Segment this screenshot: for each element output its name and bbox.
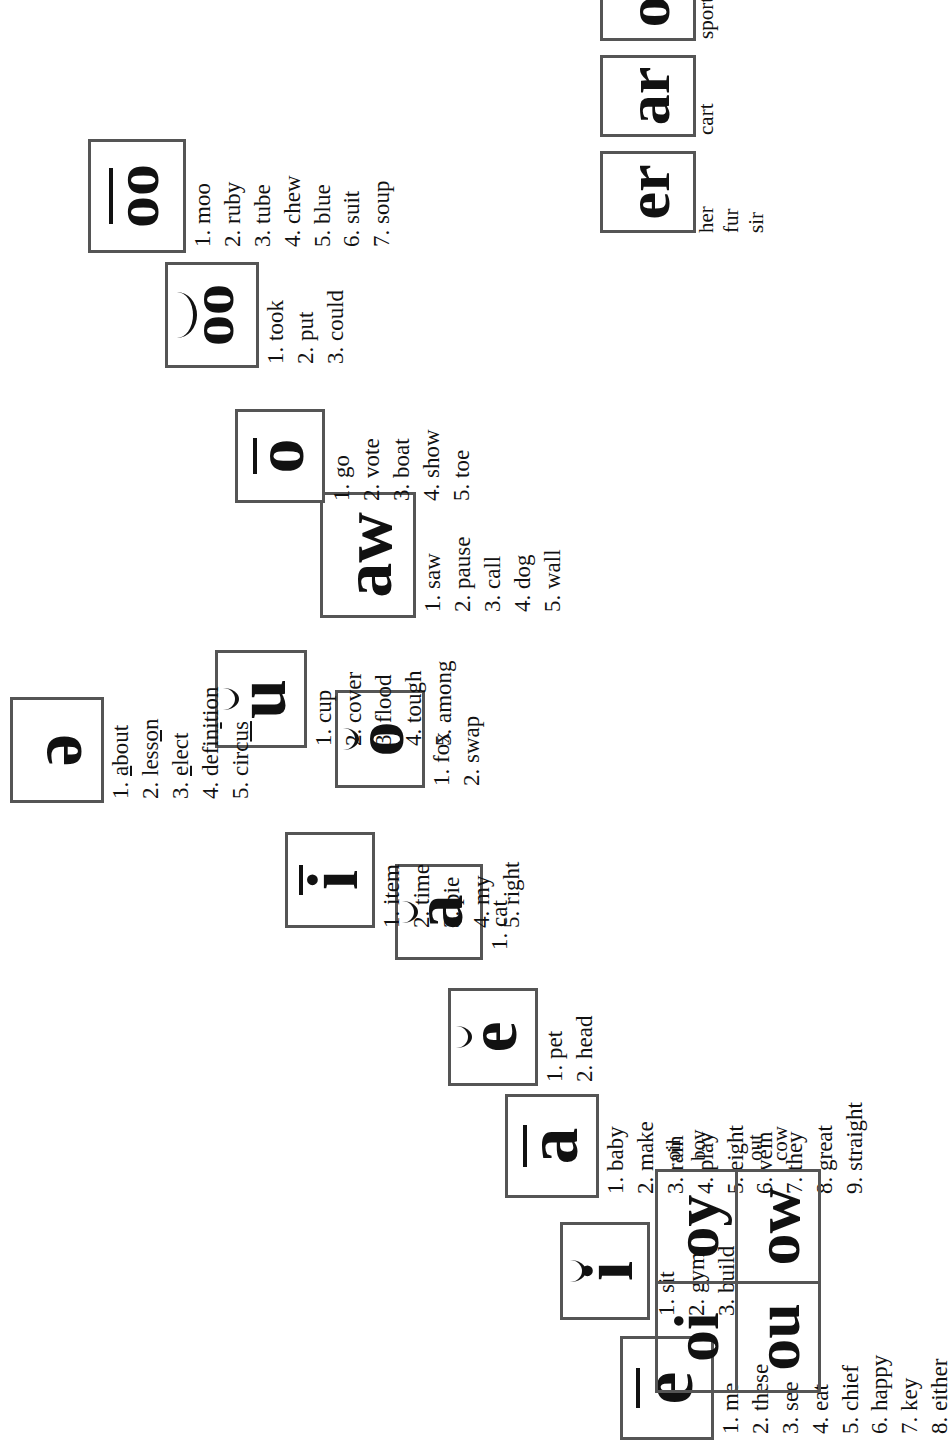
vowel-group-short-i: i 1. sit 2. gym 3. build: [560, 1222, 650, 1320]
word-item: boy: [686, 1130, 711, 1162]
word-item: 4. chew: [278, 175, 308, 247]
word-item: 5. blue: [308, 175, 338, 247]
word-item: 1. moo: [188, 175, 218, 247]
word-item: 8. either: [925, 1355, 952, 1434]
word-item: 1. baby: [601, 1102, 631, 1194]
diphthong-section: oi oy ou ow oil boy out cow: [655, 1169, 821, 1393]
vowel-card-ar[interactable]: ar: [600, 55, 696, 137]
word-list-short-oo: 1. took 2. put 3. could: [261, 290, 351, 364]
word-item: 1. about: [106, 687, 136, 799]
vowel-symbol-long-oo: oo: [107, 164, 168, 228]
word-item: 4. dog: [508, 537, 538, 612]
word-item: 2. swap: [457, 716, 487, 786]
word-item: 2. cover: [339, 660, 369, 746]
word-item: sport: [694, 0, 719, 39]
macron-icon: [253, 438, 257, 474]
word-item: 5. right: [497, 862, 527, 928]
vowel-card-long-i[interactable]: i: [285, 832, 375, 928]
vowel-symbol-ar: ar: [619, 67, 678, 126]
vowel-card-short-i[interactable]: i: [560, 1222, 650, 1320]
word-item: 5. circus: [226, 687, 256, 799]
word-item: 3. boat: [387, 429, 417, 501]
vowel-card-or[interactable]: or: [600, 0, 696, 41]
word-item: oil: [661, 1130, 686, 1162]
word-list-long-i: 1. item 2. time 3. pie 4. my 5. right: [377, 862, 526, 928]
vowel-card-short-e[interactable]: e: [448, 988, 538, 1086]
vowel-group-aw: aw 1. saw 2. pause 3. call 4. dog 5. wal…: [320, 492, 416, 618]
diphthong-cell-ow[interactable]: ow: [738, 1172, 818, 1281]
word-item: 1. go: [327, 429, 357, 501]
vowel-group-long-oo: oo 1. moo 2. ruby 3. tube 4. chew 5. blu…: [88, 139, 186, 253]
word-item: her: [694, 206, 719, 233]
word-list-ou-ow: out cow: [743, 1126, 793, 1161]
word-list-schwa: 1. about 2. lesson 3. elect 4. definitio…: [106, 687, 255, 799]
word-item: 7. key: [895, 1355, 925, 1434]
word-item: 2. vote: [357, 429, 387, 501]
word-item: 2. head: [570, 1016, 600, 1082]
word-item: 2. time: [407, 862, 437, 928]
macron-icon: [109, 168, 113, 224]
word-item: 3. pie: [437, 862, 467, 928]
word-item: 3. call: [478, 537, 508, 612]
vowel-card-er[interactable]: er: [600, 151, 696, 233]
word-item: 4. show: [417, 429, 447, 501]
word-item: 4. tough: [399, 660, 429, 746]
diphthong-grid: oi oy ou ow: [655, 1169, 821, 1393]
vowel-group-long-i: i 1. item 2. time 3. pie 4. my 5. right: [285, 832, 375, 928]
word-item: out: [743, 1126, 768, 1161]
word-item: 9. straight: [840, 1102, 870, 1194]
vowel-group-short-e: e 1. pet 2. head: [448, 988, 538, 1086]
word-item: sir: [744, 206, 769, 233]
diphthong-cell-oi[interactable]: oi: [658, 1281, 738, 1390]
word-item: 2. pause: [448, 537, 478, 612]
word-list-ar: cart: [694, 104, 719, 135]
word-item: 1. saw: [418, 537, 448, 612]
word-item: 4. my: [467, 862, 497, 928]
word-item: 1. cup: [309, 660, 339, 746]
vowel-card-schwa[interactable]: ə: [10, 697, 104, 803]
word-item: 5. among: [429, 660, 459, 746]
vowel-card-short-oo[interactable]: oo: [165, 262, 259, 368]
word-item: 5. wall: [538, 537, 568, 612]
diphthong-cell-oy[interactable]: oy: [658, 1172, 738, 1281]
r-controlled-section: er her fur sir ar cart or: [600, 0, 696, 233]
word-item: 2. put: [291, 290, 321, 364]
word-list-oi-oy: oil boy: [661, 1130, 711, 1162]
vowel-group-short-oo: oo 1. took 2. put 3. could: [165, 262, 259, 368]
vowel-card-aw[interactable]: aw: [320, 492, 416, 618]
word-item: 3. elect: [166, 687, 196, 799]
r-controlled-cards: er her fur sir ar cart or: [600, 0, 696, 233]
word-item: fur: [719, 206, 744, 233]
word-item: 6. suit: [337, 175, 367, 247]
vowel-card-long-o[interactable]: o: [235, 409, 325, 503]
vowel-group-schwa: ə 1. about 2. lesson 3. elect 4. definit…: [10, 697, 104, 803]
vowel-symbol-short-i: i: [568, 1261, 642, 1281]
vowel-symbol-er: er: [619, 164, 678, 219]
vowel-symbol-long-i: i: [293, 870, 367, 890]
vowel-symbol-schwa: ə: [23, 734, 91, 766]
word-list-short-u: 1. cup 2. cover 3. flood 4. tough 5. amo…: [309, 660, 458, 746]
word-item: 1. item: [377, 862, 407, 928]
word-list-or: sport: [694, 0, 719, 39]
word-item: 6. happy: [865, 1355, 895, 1434]
word-item: 3. could: [321, 290, 351, 364]
word-item: 2. lesson: [136, 687, 166, 799]
word-list-aw: 1. saw 2. pause 3. call 4. dog 5. wall: [418, 537, 567, 612]
diphthong-cell-ou[interactable]: ou: [738, 1281, 818, 1390]
vowel-card-long-a[interactable]: a: [505, 1094, 599, 1198]
word-item: 3. tube: [248, 175, 278, 247]
vowel-group-long-o: o 1. go 2. vote 3. boat 4. show 5. toe: [235, 409, 325, 503]
word-item: 7. soup: [367, 175, 397, 247]
word-list-short-e: 1. pet 2. head: [540, 1016, 600, 1082]
word-item: 3. flood: [369, 660, 399, 746]
word-list-long-o: 1. go 2. vote 3. boat 4. show 5. toe: [327, 429, 476, 501]
word-item: 5. chief: [836, 1355, 866, 1434]
word-item: 4. definition: [196, 687, 226, 799]
vowel-card-long-oo[interactable]: oo: [88, 139, 186, 253]
word-item: cow: [768, 1126, 793, 1161]
macron-icon: [636, 1368, 640, 1408]
macron-icon: [523, 1125, 527, 1167]
vowel-symbol-short-oo: oo: [183, 284, 242, 346]
